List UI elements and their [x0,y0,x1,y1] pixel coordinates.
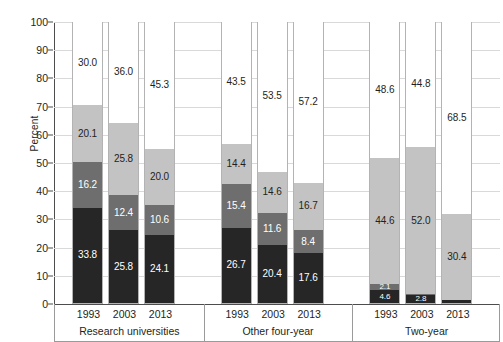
bar-segment[interactable]: 57.2 [294,21,323,182]
y-axis-tick-mark [48,163,53,164]
bar-segment[interactable]: 45.3 [145,21,174,149]
stacked-bar[interactable]: 2.852.044.8 [405,22,436,304]
bar-segment[interactable]: 44.6 [370,158,399,284]
year-label: 1993 [220,308,254,320]
bar-segment[interactable]: 24.1 [145,235,174,303]
bar-segment-value-label: 43.5 [227,77,246,87]
y-axis-tick-mark [48,247,53,248]
year-label: 1993 [369,308,403,320]
bar-segment[interactable]: 53.5 [258,21,287,172]
bar-segment[interactable]: 15.4 [222,184,251,227]
bar-segment-value-label: 24.1 [150,264,169,274]
category-group-label: Research universities [55,325,204,337]
bar-segment-value-label: 16.7 [299,201,318,211]
bar-segment[interactable]: 20.1 [73,105,102,162]
year-labels-row: 199320032013 [204,308,353,322]
category-separator [352,304,353,342]
bar-segment[interactable]: 14.6 [258,172,287,213]
stacked-bar-chart: 0102030405060708090100 Percent 33.816.22… [0,0,503,342]
bar-segment-value-label: 25.8 [114,262,133,272]
bar-segment-value-label: 68.5 [447,113,466,123]
bar-segment-value-label: 16.2 [78,180,97,190]
bar-segment-value-label: 14.6 [263,187,282,197]
y-axis-tick-label: 100 [14,16,48,28]
stacked-bar[interactable]: 24.110.620.045.3 [144,22,175,304]
bar-segment[interactable]: 17.6 [294,253,323,303]
stacked-bar[interactable]: 30.468.5 [441,22,472,304]
bar-segment[interactable]: 8.4 [294,230,323,254]
bar-segment[interactable]: 44.8 [406,21,435,147]
year-label: 2003 [108,308,142,320]
year-label: 1993 [72,308,106,320]
bar-group: 33.816.220.130.025.812.425.836.024.110.6… [54,22,203,304]
bar-segment[interactable]: 25.8 [109,230,138,303]
stacked-bar[interactable]: 33.816.220.130.0 [72,22,103,304]
bar-segment[interactable]: 2.8 [406,295,435,303]
bar-segment-value-label: 20.1 [78,129,97,139]
y-axis-tick-label: 90 [14,44,48,56]
bar-segment[interactable]: 12.4 [109,195,138,230]
y-axis-tick-label: 0 [14,298,48,310]
bar-segment[interactable]: 11.6 [258,213,287,246]
y-axis-tick-label: 80 [14,72,48,84]
bar-segment[interactable]: 16.2 [73,162,102,208]
bar-segment[interactable]: 20.0 [145,149,174,205]
bar-segment-value-label: 36.0 [114,67,133,77]
year-label: 2003 [256,308,290,320]
bar-segment-value-label: 20.4 [263,269,282,279]
bar-segment-value-label: 20.0 [150,172,169,182]
y-axis-tick-mark [48,304,53,305]
bar-segment[interactable]: 25.8 [109,123,138,196]
category-separator [204,304,205,342]
bar-segment-value-label: 26.7 [227,260,246,270]
category-group-label: Other four-year [204,325,353,337]
year-label: 2013 [441,308,475,320]
y-axis-title: Percent [29,94,40,174]
year-label: 2013 [292,308,326,320]
bar-segment[interactable]: 30.0 [73,21,102,106]
y-axis-tick-mark [48,275,53,276]
bar-segment-value-label: 4.6 [379,293,390,301]
year-label: 2003 [405,308,439,320]
bar-segment[interactable] [406,294,435,295]
bar-segment[interactable]: 68.5 [442,21,471,214]
stacked-bar[interactable]: 20.411.614.653.5 [257,22,288,304]
bar-segment[interactable]: 48.6 [370,21,399,158]
bar-segment[interactable]: 4.6 [370,290,399,303]
stacked-bar[interactable]: 26.715.414.443.5 [221,22,252,304]
y-axis-tick-mark [48,106,53,107]
bar-segment[interactable]: 52.0 [406,147,435,294]
bar-segment[interactable]: 16.7 [294,183,323,230]
bar-segment[interactable]: 26.7 [222,228,251,303]
bar-segment-value-label: 2.8 [415,295,426,303]
y-axis-tick-mark [48,50,53,51]
bar-segment-value-label: 15.4 [227,201,246,211]
bar-segment-value-label: 17.6 [299,273,318,283]
bar-segment-value-label: 45.3 [150,80,169,90]
bar-segment[interactable]: 33.8 [73,208,102,303]
bar-segment-value-label: 30.0 [78,58,97,68]
bar-segment[interactable]: 14.4 [222,144,251,185]
bar-segment[interactable]: 43.5 [222,21,251,144]
stacked-bar[interactable]: 25.812.425.836.0 [108,22,139,304]
bar-group: 26.715.414.443.520.411.614.653.517.68.41… [203,22,352,304]
bar-segment[interactable]: 30.4 [442,214,471,300]
bar-segment-value-label: 52.0 [411,216,430,226]
bar-segment[interactable] [442,300,471,303]
stacked-bar[interactable]: 17.68.416.757.2 [293,22,324,304]
bar-segment[interactable]: 36.0 [109,21,138,123]
bar-segment-value-label: 12.4 [114,208,133,218]
bar-segment-value-label: 14.4 [227,159,246,169]
bar-segment[interactable]: 2.1 [370,284,399,290]
plot-area: 33.816.220.130.025.812.425.836.024.110.6… [54,22,500,304]
stacked-bar[interactable]: 4.62.144.648.6 [369,22,400,304]
category-group: 199320032013Research universities [55,304,204,342]
bar-segment-value-label: 44.6 [375,216,394,226]
year-labels-row: 199320032013 [55,308,204,322]
bar-segment[interactable]: 20.4 [258,245,287,303]
category-group-label: Two-year [352,325,501,337]
y-axis-tick-mark [48,191,53,192]
bar-segment-value-label: 53.5 [263,91,282,101]
y-axis-tick-label: 40 [14,185,48,197]
bar-segment[interactable]: 10.6 [145,205,174,235]
